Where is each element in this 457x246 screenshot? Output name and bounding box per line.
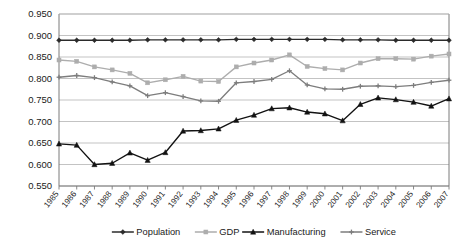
- data-point-marker: [204, 230, 208, 234]
- data-point-marker: [110, 68, 114, 72]
- data-point-marker: [412, 57, 416, 61]
- square-marker-icon: [287, 53, 291, 57]
- square-marker-icon: [217, 80, 221, 84]
- square-marker-icon: [412, 57, 416, 61]
- data-point-marker: [305, 64, 309, 68]
- line-chart: 0.9500.9000.8500.8000.7500.7000.6500.600…: [0, 0, 457, 246]
- data-point-marker: [92, 65, 96, 69]
- data-point-marker: [57, 58, 61, 62]
- data-point-marker: [163, 78, 167, 82]
- square-marker-icon: [92, 65, 96, 69]
- square-marker-icon: [270, 58, 274, 62]
- square-marker-icon: [234, 65, 238, 69]
- data-point-marker: [234, 65, 238, 69]
- legend-label: GDP: [219, 227, 239, 237]
- legend-label: Manufacturing: [267, 227, 326, 237]
- data-point-marker: [128, 71, 132, 75]
- y-axis-tick-label: 0.650: [28, 137, 52, 148]
- y-axis-tick-label: 0.600: [28, 159, 52, 170]
- chart-background: [0, 0, 457, 246]
- square-marker-icon: [323, 67, 327, 71]
- chart-container: 0.9500.9000.8500.8000.7500.7000.6500.600…: [0, 0, 457, 246]
- y-axis-tick-label: 0.550: [28, 180, 52, 191]
- y-axis-tick-label: 0.800: [28, 73, 52, 84]
- square-marker-icon: [181, 74, 185, 78]
- data-point-marker: [358, 61, 362, 65]
- legend-label: Service: [365, 227, 396, 237]
- data-point-marker: [199, 79, 203, 83]
- square-marker-icon: [252, 61, 256, 65]
- data-point-marker: [217, 80, 221, 84]
- data-point-marker: [341, 68, 345, 72]
- square-marker-icon: [199, 79, 203, 83]
- square-marker-icon: [75, 59, 79, 63]
- square-marker-icon: [146, 81, 150, 85]
- square-marker-icon: [341, 68, 345, 72]
- data-point-marker: [447, 52, 451, 56]
- data-point-marker: [181, 74, 185, 78]
- y-axis-tick-labels: 0.9500.9000.8500.8000.7500.7000.6500.600…: [28, 8, 52, 191]
- square-marker-icon: [57, 58, 61, 62]
- data-point-marker: [252, 61, 256, 65]
- square-marker-icon: [447, 52, 451, 56]
- square-marker-icon: [394, 57, 398, 61]
- y-axis-tick-label: 0.850: [28, 51, 52, 62]
- legend-label: Population: [136, 227, 180, 237]
- square-marker-icon: [128, 71, 132, 75]
- square-marker-icon: [163, 78, 167, 82]
- y-axis-tick-label: 0.950: [28, 8, 52, 19]
- square-marker-icon: [110, 68, 114, 72]
- data-point-marker: [376, 57, 380, 61]
- data-point-marker: [323, 67, 327, 71]
- square-marker-icon: [204, 230, 208, 234]
- y-axis-tick-label: 0.750: [28, 94, 52, 105]
- square-marker-icon: [429, 54, 433, 58]
- data-point-marker: [394, 57, 398, 61]
- data-point-marker: [146, 81, 150, 85]
- data-point-marker: [287, 53, 291, 57]
- data-point-marker: [75, 59, 79, 63]
- y-axis-tick-label: 0.900: [28, 30, 52, 41]
- data-point-marker: [270, 58, 274, 62]
- data-point-marker: [429, 54, 433, 58]
- square-marker-icon: [376, 57, 380, 61]
- y-axis-tick-label: 0.700: [28, 116, 52, 127]
- square-marker-icon: [358, 61, 362, 65]
- square-marker-icon: [305, 64, 309, 68]
